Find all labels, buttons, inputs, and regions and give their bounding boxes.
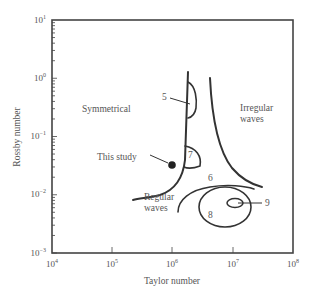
label-6: 6: [208, 173, 213, 183]
y-tick-10-m2: 10−2: [31, 188, 46, 199]
y-tick-10-0: 100: [34, 72, 46, 83]
leader-this-study: [150, 155, 168, 163]
curve-6: [178, 186, 254, 212]
y-tick-10-1: 101: [34, 14, 46, 25]
this-study-marker: [168, 161, 176, 169]
x-tick-10-5: 105: [106, 258, 118, 269]
label-5: 5: [162, 92, 167, 102]
curve-5: [188, 82, 196, 118]
y-tick-10-m3: 10−3: [31, 247, 46, 258]
y-tick-labels: 101 100 10−1 10−2 10−3: [31, 14, 46, 258]
x-tick-10-6: 106: [166, 258, 178, 269]
region-irregular-line2: waves: [240, 114, 264, 124]
symmetric-regular-boundary: [133, 72, 188, 200]
x-tick-10-8: 108: [287, 258, 299, 269]
y-tick-10-m1: 10−1: [31, 130, 46, 141]
regular-irregular-boundary: [210, 78, 262, 187]
y-axis-title: Rossby number: [12, 106, 22, 166]
x-axis-ticks: [112, 247, 233, 253]
region-irregular-line1: Irregular: [240, 103, 274, 113]
label-this-study: This study: [97, 152, 137, 162]
label-9: 9: [265, 198, 270, 208]
region-regular-line2: waves: [144, 203, 168, 213]
regime-diagram: 101 100 10−1 10−2 10−3 104 105 106 107 1…: [0, 0, 315, 291]
label-7: 7: [188, 150, 193, 160]
curve-8: [199, 187, 251, 227]
plot-frame: [52, 20, 293, 253]
x-tick-10-7: 107: [227, 258, 239, 269]
region-symmetrical: Symmetrical: [82, 104, 131, 114]
region-regular-line1: Regular: [144, 192, 175, 202]
x-axis-title: Taylor number: [144, 276, 201, 286]
x-tick-10-4: 104: [46, 258, 58, 269]
label-8: 8: [208, 210, 213, 220]
x-tick-labels: 104 105 106 107 108: [46, 258, 299, 269]
